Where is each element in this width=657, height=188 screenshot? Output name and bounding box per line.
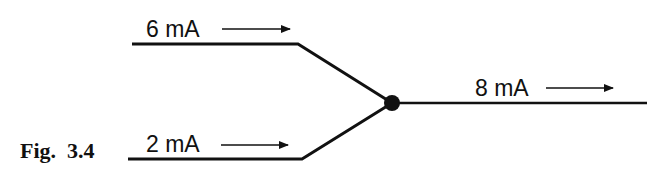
top-input-wire bbox=[132, 44, 392, 103]
junction-node-icon bbox=[384, 95, 400, 111]
bottom-current-label: 2 mA bbox=[146, 131, 200, 157]
output-current-label: 8 mA bbox=[475, 75, 529, 101]
figure-caption: Fig. 3.4 bbox=[20, 138, 95, 163]
top-current-label: 6 mA bbox=[146, 16, 200, 42]
junction-diagram: 6 mA 2 mA 8 mA Fig. 3.4 bbox=[0, 0, 657, 188]
